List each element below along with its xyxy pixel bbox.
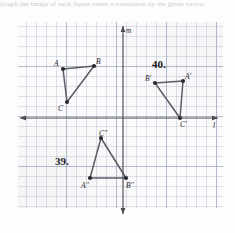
axis-group: m l bbox=[20, 26, 218, 214]
segment-a-prime-c-prime bbox=[180, 81, 183, 118]
vertex-label-c-dprime: C'' bbox=[99, 129, 108, 138]
segment-a-dprime-c-dprime bbox=[90, 138, 101, 178]
triangle-abc: A B C bbox=[53, 57, 101, 113]
segment-c-dprime-b-dprime bbox=[101, 138, 126, 178]
problem-number-39: 39. bbox=[55, 155, 69, 167]
y-axis-label: m bbox=[126, 26, 132, 35]
problem-number-40: 40. bbox=[152, 58, 166, 70]
vertex-label-a-prime: A' bbox=[184, 72, 192, 81]
segment-c-prime-b-prime bbox=[155, 83, 180, 118]
x-axis-label: l bbox=[213, 121, 215, 130]
vertex-a-dprime bbox=[88, 176, 92, 180]
y-axis-arrow-up bbox=[121, 26, 126, 32]
vertex-label-b-prime: B' bbox=[145, 74, 152, 83]
segment-bc bbox=[67, 66, 94, 102]
vertex-label-b: B bbox=[96, 57, 101, 66]
vertex-label-a-dprime: A'' bbox=[80, 181, 89, 190]
vertex-b-prime bbox=[153, 81, 157, 85]
x-axis-arrow-left bbox=[20, 116, 26, 121]
segment-ab bbox=[63, 66, 94, 69]
vertex-b-dprime bbox=[124, 176, 128, 180]
vertex-label-b-dprime: B'' bbox=[126, 181, 134, 190]
vertex-c bbox=[65, 100, 69, 104]
x-axis-arrow-right bbox=[212, 116, 218, 121]
triangle-a-dprime-b-dprime-c-dprime: C'' A'' B'' 39. bbox=[55, 129, 134, 190]
vertex-a bbox=[61, 67, 65, 71]
worksheet-page: Graph the image of each figure under a t… bbox=[0, 0, 235, 233]
vertex-label-a: A bbox=[53, 59, 59, 68]
vertex-label-c: C bbox=[58, 104, 64, 113]
figure-svg: m l A B C B' A' C' 40. bbox=[0, 0, 235, 233]
segment-b-prime-a-prime bbox=[155, 81, 183, 83]
vertex-label-c-prime: C' bbox=[180, 120, 187, 129]
segment-ca bbox=[63, 69, 67, 102]
y-axis-arrow-down bbox=[121, 208, 126, 214]
